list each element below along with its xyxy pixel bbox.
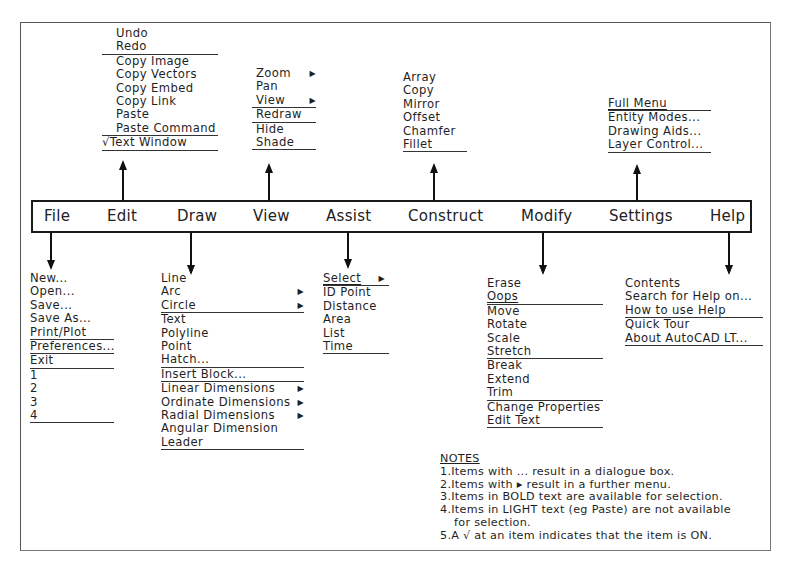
note-line: for selection. bbox=[440, 517, 731, 530]
edit-item-copy-embed[interactable]: Copy Embed bbox=[102, 82, 218, 95]
modify-item-erase[interactable]: Erase bbox=[487, 277, 603, 290]
help-arrow-icon bbox=[728, 232, 730, 273]
settings-item-full-menu[interactable]: Full Menu bbox=[608, 97, 711, 111]
view-item-zoom[interactable]: Zoom▶ bbox=[252, 67, 316, 80]
edit-item-undo[interactable]: Undo bbox=[102, 27, 218, 40]
draw-item-radial-dimensions[interactable]: Radial Dimensions▶ bbox=[161, 409, 304, 422]
file-item-save-as[interactable]: Save As... bbox=[30, 312, 114, 325]
edit-item-copy-vectors[interactable]: Copy Vectors bbox=[102, 68, 218, 81]
modify-menu: Erase Oops Move Rotate Scale Stretch Bre… bbox=[487, 277, 603, 428]
view-item-view[interactable]: View▶ bbox=[252, 94, 316, 108]
assist-item-distance[interactable]: Distance bbox=[323, 300, 389, 313]
settings-menu: Full Menu Entity Modes... Drawing Aids..… bbox=[608, 97, 711, 153]
menubar-draw[interactable]: Draw bbox=[177, 207, 217, 225]
menubar-modify[interactable]: Modify bbox=[521, 207, 573, 225]
draw-item-circle[interactable]: Circle▶ bbox=[161, 299, 304, 313]
modify-item-move[interactable]: Move bbox=[487, 305, 603, 318]
help-item-how-to-use[interactable]: How to use Help bbox=[625, 304, 763, 318]
menubar-settings[interactable]: Settings bbox=[609, 207, 673, 225]
menubar-assist[interactable]: Assist bbox=[326, 207, 372, 225]
assist-menu: Select▶ ID Point Distance Area List Time bbox=[323, 272, 389, 354]
file-item-save[interactable]: Save... bbox=[30, 299, 114, 312]
modify-item-break[interactable]: Break bbox=[487, 359, 603, 372]
help-item-quick-tour[interactable]: Quick Tour bbox=[625, 318, 763, 331]
edit-item-copy-image[interactable]: Copy Image bbox=[102, 55, 218, 68]
file-item-print-plot[interactable]: Print/Plot bbox=[30, 326, 114, 340]
note-line: 5.A √ at an item indicates that the item… bbox=[440, 530, 731, 543]
file-item-recent-3[interactable]: 3 bbox=[30, 396, 114, 409]
file-item-preferences[interactable]: Preferences... bbox=[30, 340, 114, 354]
submenu-arrow-icon: ▶ bbox=[297, 382, 304, 395]
draw-item-arc[interactable]: Arc▶ bbox=[161, 285, 304, 298]
assist-item-time[interactable]: Time bbox=[323, 340, 389, 354]
menubar-edit[interactable]: Edit bbox=[107, 207, 137, 225]
draw-item-point[interactable]: Point bbox=[161, 340, 304, 353]
construct-item-copy[interactable]: Copy bbox=[403, 84, 467, 97]
modify-item-scale[interactable]: Scale bbox=[487, 332, 603, 345]
view-menu: Zoom▶ Pan View▶ Redraw Hide Shade bbox=[252, 67, 316, 150]
modify-item-change-properties[interactable]: Change Properties bbox=[487, 401, 603, 414]
file-item-open[interactable]: Open... bbox=[30, 285, 114, 298]
submenu-arrow-icon: ▶ bbox=[309, 67, 316, 80]
draw-item-angular-dimension[interactable]: Angular Dimension bbox=[161, 422, 304, 435]
modify-item-oops[interactable]: Oops bbox=[487, 290, 603, 304]
submenu-arrow-icon: ▶ bbox=[297, 396, 304, 409]
submenu-arrow-icon: ▶ bbox=[309, 94, 316, 107]
menubar-view[interactable]: View bbox=[253, 207, 290, 225]
edit-item-paste[interactable]: Paste bbox=[102, 108, 218, 121]
draw-item-text[interactable]: Text bbox=[161, 313, 304, 326]
draw-arrow-icon bbox=[190, 232, 192, 273]
construct-item-fillet[interactable]: Fillet bbox=[403, 138, 467, 152]
view-item-shade[interactable]: Shade bbox=[252, 136, 316, 150]
submenu-arrow-icon: ▶ bbox=[297, 299, 304, 312]
file-item-new[interactable]: New... bbox=[30, 272, 114, 285]
file-arrow-icon bbox=[50, 232, 52, 268]
draw-item-polyline[interactable]: Polyline bbox=[161, 327, 304, 340]
draw-item-line[interactable]: Line bbox=[161, 272, 304, 285]
file-item-recent-4[interactable]: 4 bbox=[30, 409, 114, 423]
help-item-contents[interactable]: Contents bbox=[625, 277, 763, 290]
edit-item-copy-link[interactable]: Copy Link bbox=[102, 95, 218, 108]
assist-item-area[interactable]: Area bbox=[323, 313, 389, 326]
draw-item-hatch[interactable]: Hatch... bbox=[161, 353, 304, 367]
settings-item-drawing-aids[interactable]: Drawing Aids... bbox=[608, 125, 711, 138]
view-arrow-icon bbox=[268, 165, 270, 201]
construct-menu: Array Copy Mirror Offset Chamfer Fillet bbox=[403, 71, 467, 152]
help-item-about[interactable]: About AutoCAD LT... bbox=[625, 332, 763, 346]
construct-arrow-icon bbox=[433, 165, 435, 201]
menubar-help[interactable]: Help bbox=[710, 207, 745, 225]
modify-item-trim[interactable]: Trim bbox=[487, 386, 603, 400]
modify-item-extend[interactable]: Extend bbox=[487, 373, 603, 386]
assist-item-id-point[interactable]: ID Point bbox=[323, 286, 389, 299]
draw-item-linear-dimensions[interactable]: Linear Dimensions▶ bbox=[161, 382, 304, 395]
modify-arrow-icon bbox=[542, 232, 544, 273]
submenu-arrow-icon: ▶ bbox=[297, 409, 304, 422]
view-item-hide[interactable]: Hide bbox=[252, 123, 316, 136]
file-item-exit[interactable]: Exit bbox=[30, 354, 114, 368]
settings-item-entity-modes[interactable]: Entity Modes... bbox=[608, 111, 711, 124]
construct-item-offset[interactable]: Offset bbox=[403, 111, 467, 124]
modify-item-stretch[interactable]: Stretch bbox=[487, 345, 603, 359]
file-item-recent-1[interactable]: 1 bbox=[30, 369, 114, 382]
file-item-recent-2[interactable]: 2 bbox=[30, 382, 114, 395]
edit-item-redo[interactable]: Redo bbox=[102, 40, 218, 54]
construct-item-mirror[interactable]: Mirror bbox=[403, 98, 467, 111]
edit-item-paste-command[interactable]: Paste Command bbox=[102, 122, 218, 136]
construct-item-array[interactable]: Array bbox=[403, 71, 467, 84]
view-item-redraw[interactable]: Redraw bbox=[252, 108, 316, 122]
edit-item-text-window[interactable]: √Text Window bbox=[102, 136, 218, 150]
settings-item-layer-control[interactable]: Layer Control... bbox=[608, 138, 711, 152]
draw-item-leader[interactable]: Leader bbox=[161, 436, 304, 450]
assist-item-list[interactable]: List bbox=[323, 327, 389, 340]
assist-item-select[interactable]: Select▶ bbox=[323, 272, 389, 286]
help-menu: Contents Search for Help on... How to us… bbox=[625, 277, 763, 346]
construct-item-chamfer[interactable]: Chamfer bbox=[403, 125, 467, 138]
modify-item-rotate[interactable]: Rotate bbox=[487, 318, 603, 331]
view-item-pan[interactable]: Pan bbox=[252, 80, 316, 93]
modify-item-edit-text[interactable]: Edit Text bbox=[487, 414, 603, 428]
draw-item-insert-block[interactable]: Insert Block... bbox=[161, 368, 304, 382]
menubar-file[interactable]: File bbox=[44, 207, 70, 225]
menubar-construct[interactable]: Construct bbox=[408, 207, 483, 225]
help-item-search[interactable]: Search for Help on... bbox=[625, 290, 763, 303]
draw-item-ordinate-dimensions[interactable]: Ordinate Dimensions▶ bbox=[161, 396, 304, 409]
